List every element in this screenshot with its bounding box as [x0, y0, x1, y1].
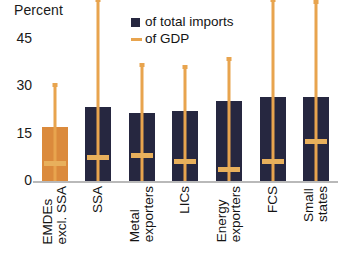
x-axis-label-text: Smallstates	[302, 186, 330, 222]
y-tick-label-0: 0	[4, 173, 32, 187]
x-axis-label-text: LICs	[178, 186, 192, 214]
range-cap-icon	[183, 65, 188, 69]
median-marker-of-gdp	[131, 153, 153, 158]
bar-group	[294, 0, 338, 182]
chart-container: Percent 45 30 15 0 of total imports of G…	[0, 0, 338, 258]
x-axis-label: LICs	[164, 184, 208, 258]
median-marker-of-gdp	[174, 159, 196, 164]
range-cap-icon	[139, 63, 144, 67]
x-axis-baseline	[33, 181, 338, 183]
x-axis-category-labels: EMDEsexcl. SSASSAMetalexportersLICsEnerg…	[33, 184, 338, 258]
x-axis-label-text: FCS	[266, 186, 280, 213]
x-axis-label: SSA	[77, 184, 121, 258]
median-marker-of-gdp	[44, 161, 66, 166]
legend-label-total-imports: of total imports	[145, 14, 234, 30]
median-marker-of-gdp	[87, 155, 109, 160]
y-tick-label-30: 30	[4, 78, 32, 92]
x-axis-label: Smallstates	[294, 184, 338, 258]
median-marker-of-gdp	[218, 167, 240, 172]
bar-group	[251, 0, 295, 182]
y-tick-label-15: 15	[4, 126, 32, 140]
range-cap-icon	[314, 0, 319, 4]
x-axis-label: Energyexporters	[207, 184, 251, 258]
legend-item-total-imports: of total imports	[131, 14, 234, 30]
range-line-of-gdp	[184, 67, 187, 182]
y-tick-label-45: 45	[4, 31, 32, 45]
range-line-of-gdp	[315, 2, 318, 182]
range-line-of-gdp	[271, 0, 274, 182]
bar-group	[77, 0, 121, 182]
range-cap-icon	[52, 83, 57, 87]
x-axis-label: EMDEsexcl. SSA	[33, 184, 77, 258]
range-line-of-gdp	[228, 59, 231, 182]
dash-marker-icon	[131, 38, 142, 41]
bar-group	[33, 0, 77, 182]
square-marker-icon	[131, 18, 140, 27]
x-axis-label: Metalexporters	[120, 184, 164, 258]
x-axis-label-text: Metalexporters	[128, 186, 156, 242]
legend-item-of-gdp: of GDP	[131, 31, 234, 47]
range-cap-icon	[227, 57, 232, 61]
range-line-of-gdp	[140, 65, 143, 182]
y-axis-tick-labels: 45 30 15 0	[0, 0, 32, 258]
x-axis-label-text: Energyexporters	[215, 186, 243, 242]
x-axis-label-text: EMDEsexcl. SSA	[41, 186, 69, 245]
legend-label-of-gdp: of GDP	[145, 31, 189, 47]
range-cap-icon	[270, 0, 275, 2]
x-axis-label-text: SSA	[91, 186, 105, 213]
x-axis-label: FCS	[251, 184, 295, 258]
median-marker-of-gdp	[305, 139, 327, 144]
chart-legend: of total imports of GDP	[131, 14, 234, 47]
range-line-of-gdp	[53, 85, 56, 182]
median-marker-of-gdp	[262, 159, 284, 164]
range-cap-icon	[96, 0, 101, 2]
